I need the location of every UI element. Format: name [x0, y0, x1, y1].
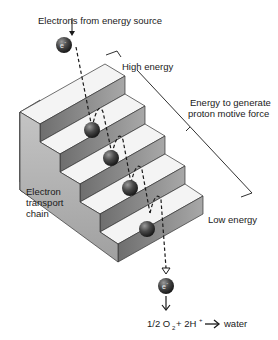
electron-step-4 — [139, 221, 155, 237]
eq-superscript: + — [199, 317, 203, 323]
eq-product: water — [223, 318, 247, 329]
arrow-down-icon — [162, 268, 170, 274]
electron-step-3 — [122, 180, 138, 196]
label-force-line1: Energy to generate — [190, 97, 271, 108]
eq-part1: 1/2 O — [147, 318, 170, 329]
label-high-energy: High energy — [122, 61, 173, 72]
svg-text:e: e — [60, 42, 64, 49]
arrow-down-to-water — [162, 296, 170, 310]
svg-text:e: e — [162, 283, 166, 290]
label-force-line2: proton motive force — [188, 108, 269, 119]
electron-step-2 — [103, 150, 119, 166]
label-low-energy: Low energy — [208, 214, 257, 225]
label-chain-line3: chain — [26, 208, 49, 219]
electron-bottom: e - — [158, 278, 174, 294]
label-chain-line2: transport — [26, 197, 64, 208]
label-chain-line1: Electron — [26, 186, 61, 197]
electron-transport-diagram: e - e - Electrons from energy source Hig… — [0, 0, 278, 340]
label-source: Electrons from energy source — [38, 15, 162, 26]
electron-top: e - — [56, 37, 72, 53]
arrow-right-icon — [205, 320, 219, 328]
electron-step-1 — [84, 122, 100, 138]
eq-part2: + 2H — [176, 318, 196, 329]
equation: 1/2 O 2 + 2H + water — [147, 317, 247, 331]
